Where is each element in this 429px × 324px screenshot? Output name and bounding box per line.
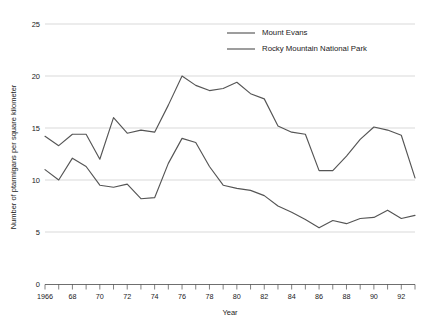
x-tick-label-1988: 88 <box>342 292 350 301</box>
data-series-group <box>45 76 415 228</box>
chart-canvas: 0510152025 19666870727476788082848688909… <box>0 0 429 324</box>
chart-legend: Mount EvansRocky Mountain National Park <box>227 28 367 53</box>
gridlines-group <box>45 24 415 232</box>
x-tick-label-1992: 92 <box>397 292 405 301</box>
y-axis-title: Number of ptarmigans per square kilomete… <box>9 84 18 229</box>
x-tick-label-1976: 76 <box>178 292 186 301</box>
y-tick-label-10: 10 <box>32 176 40 185</box>
y-tick-label-5: 5 <box>36 228 40 237</box>
x-tick-label-1980: 80 <box>233 292 241 301</box>
x-tick-label-1970: 70 <box>96 292 104 301</box>
x-tick-label-1966: 1966 <box>37 292 53 301</box>
x-tick-label-1972: 72 <box>123 292 131 301</box>
series-line-1 <box>45 138 415 227</box>
x-tick-label-1982: 82 <box>260 292 268 301</box>
y-axis-tick-labels: 0510152025 <box>32 20 40 289</box>
legend-label-0: Mount Evans <box>262 28 308 37</box>
x-axis-ticks <box>45 285 415 290</box>
y-tick-label-20: 20 <box>32 72 40 81</box>
x-axis-tick-labels: 196668707274767880828486889092 <box>37 292 405 301</box>
ptarmigan-density-line-chart: 0510152025 19666870727476788082848688909… <box>0 0 429 324</box>
x-tick-label-1990: 90 <box>370 292 378 301</box>
legend-label-1: Rocky Mountain National Park <box>262 44 367 53</box>
x-tick-label-1974: 74 <box>151 292 159 301</box>
x-tick-label-1984: 84 <box>288 292 296 301</box>
y-tick-label-15: 15 <box>32 124 40 133</box>
y-tick-label-0: 0 <box>36 280 40 289</box>
y-tick-label-25: 25 <box>32 20 40 29</box>
x-tick-label-1968: 68 <box>68 292 76 301</box>
x-tick-label-1986: 86 <box>315 292 323 301</box>
x-tick-label-1978: 78 <box>205 292 213 301</box>
series-line-0 <box>45 76 415 178</box>
x-axis-title: Year <box>222 308 238 317</box>
